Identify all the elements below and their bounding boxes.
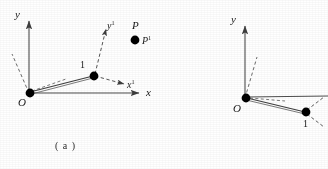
panel-a-point-p xyxy=(131,36,140,45)
panel-a-local-x-sup: 1 xyxy=(131,78,134,85)
panel-a-local-y-sup: 1 xyxy=(111,19,114,26)
figure-caption: ( a ) xyxy=(55,140,76,151)
panel-a-element-line-offset xyxy=(30,78,93,94)
panel-a-group xyxy=(12,21,139,97)
panel-a-origin-label: O xyxy=(18,97,26,108)
panel-b-upper-member xyxy=(247,96,328,97)
panel-b-node-1 xyxy=(302,108,311,117)
panel-b-node-1-label: 1 xyxy=(303,119,308,129)
panel-a-point-p-local-sup: 1 xyxy=(148,34,151,41)
panel-b-local-axis-upper xyxy=(307,97,324,110)
panel-a-y-axis-label: y xyxy=(15,9,20,20)
panel-a-x-axis-label: x xyxy=(146,87,151,98)
panel-a-local-y-axis xyxy=(95,29,106,74)
panel-b-group xyxy=(242,26,328,127)
panel-b-origin-node xyxy=(242,94,251,103)
panel-a-origin-dashed-ref xyxy=(12,54,29,93)
panel-a-local-x-axis xyxy=(95,76,124,84)
panel-a-element-line xyxy=(30,76,93,92)
panel-b-origin-label: O xyxy=(233,103,241,114)
panel-b-origin-dashed-ref xyxy=(245,57,257,98)
panel-a-point-p-local-label: P1 xyxy=(142,35,151,46)
panel-b-element-line xyxy=(247,98,305,112)
panel-a-origin-node xyxy=(26,89,35,98)
figure-vector-canvas xyxy=(0,0,328,169)
panel-a-point-p-label: P xyxy=(132,20,139,31)
panel-a-local-y-axis-label: y1 xyxy=(107,20,115,31)
figure-root: y x O 1 x1 y1 P P1 y O 1 ( a ) xyxy=(0,0,328,169)
panel-b-y-axis-label: y xyxy=(231,14,236,25)
panel-b-element-line-offset xyxy=(247,100,305,114)
panel-a-local-x-axis-label: x1 xyxy=(127,79,135,90)
panel-b-local-axis-lower xyxy=(307,114,324,127)
panel-a-node-1-label: 1 xyxy=(80,60,85,70)
panel-a-node-1 xyxy=(90,72,99,81)
